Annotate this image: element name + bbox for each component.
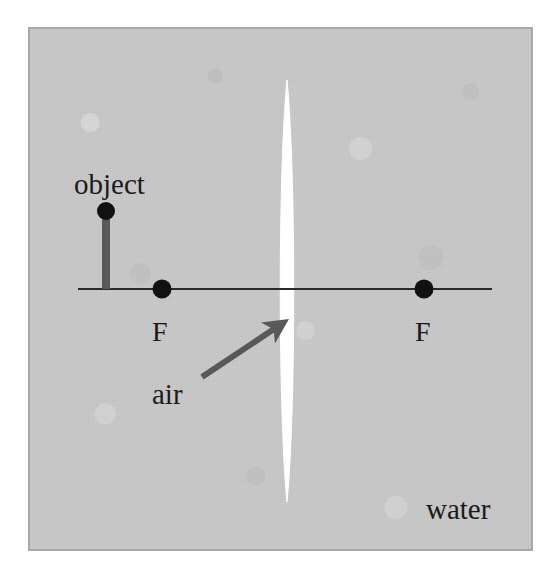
air-lens-shape [280,80,294,502]
object-arrow-head-dot [97,202,115,220]
air-label: air [152,380,183,409]
focal-point-left-label: F [152,318,168,346]
water-label: water [426,495,490,524]
figure-root: object F F air water [0,0,560,582]
focal-point-right-dot [415,280,434,299]
focal-point-right-label: F [415,318,431,346]
object-arrow-bar [102,211,110,289]
air-pointer-arrow [202,324,281,377]
optics-scene [30,29,533,551]
diagram-panel: object F F air water [28,27,533,551]
object-label: object [74,170,145,199]
focal-point-left-dot [153,280,172,299]
